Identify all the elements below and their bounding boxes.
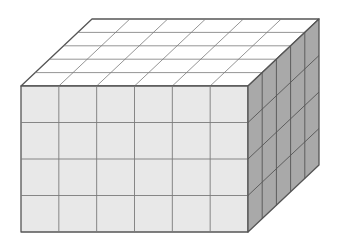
unit-cube-prism-figure	[0, 0, 339, 249]
front-face	[21, 86, 248, 232]
prism-diagram	[0, 0, 339, 249]
